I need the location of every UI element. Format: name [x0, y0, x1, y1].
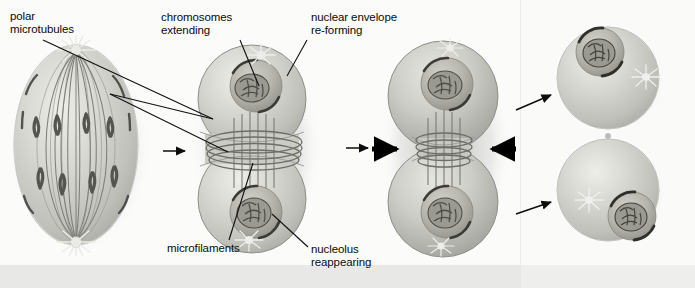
label-nucleolus-reappearing: nucleolus reappearing — [311, 243, 371, 269]
process-arrow-to-upper-daughter — [516, 95, 551, 110]
daughter-cell-upper — [555, 26, 667, 134]
chromatin-mass-upper — [235, 74, 269, 102]
label-nuclear-envelope-reforming: nuclear envelope re-forming — [311, 11, 397, 37]
cell-early-cytokinesis — [190, 44, 322, 253]
process-arrow-to-lower-daughter — [516, 202, 551, 214]
daughter-cell-lower — [555, 133, 667, 246]
label-chromosomes-extending: chromosomes extending — [161, 11, 232, 37]
nucleus-cell3-upper — [421, 58, 473, 110]
nucleus-chromatin-upper — [583, 39, 615, 67]
label-polar-microtubules: polar microtubules — [10, 10, 74, 36]
figure-stage: polar microtubules chromosomes extending… — [0, 0, 695, 288]
nucleus-upper — [230, 60, 282, 112]
nucleolus-lower — [237, 198, 271, 228]
nucleus-chromatin-lower — [615, 203, 647, 231]
nucleus-cell3-lower — [421, 186, 473, 238]
cell-telophase-spindle — [8, 36, 152, 256]
label-microfilaments: microfilaments — [167, 242, 240, 255]
